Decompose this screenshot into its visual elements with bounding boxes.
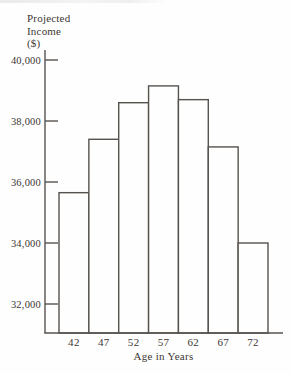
- bar-62: [178, 100, 208, 333]
- bar-67: [208, 147, 238, 333]
- x-axis-label: Age in Years: [103, 350, 224, 363]
- bar-47: [89, 139, 119, 333]
- x-tick-label: 52: [119, 336, 149, 349]
- x-tick-label: 47: [89, 336, 119, 349]
- bar-42: [59, 193, 89, 333]
- x-tick-label: 62: [178, 336, 208, 349]
- x-tick-label: 72: [238, 336, 268, 349]
- bar-chart-figure: Projected Income ($) 40,00038,00036,0003…: [0, 0, 292, 374]
- y-tick-label: 34,000: [0, 237, 41, 250]
- y-tick-label: 32,000: [0, 298, 41, 311]
- chart-canvas: [0, 0, 292, 374]
- y-tick-label: 36,000: [0, 176, 41, 189]
- y-tick-label: 38,000: [0, 115, 41, 128]
- x-tick-label: 42: [59, 336, 89, 349]
- bar-57: [149, 86, 179, 333]
- x-tick-label: 67: [208, 336, 238, 349]
- x-tick-label: 57: [149, 336, 179, 349]
- bar-72: [238, 243, 268, 333]
- y-tick-label: 40,000: [0, 54, 41, 67]
- bar-52: [119, 103, 149, 333]
